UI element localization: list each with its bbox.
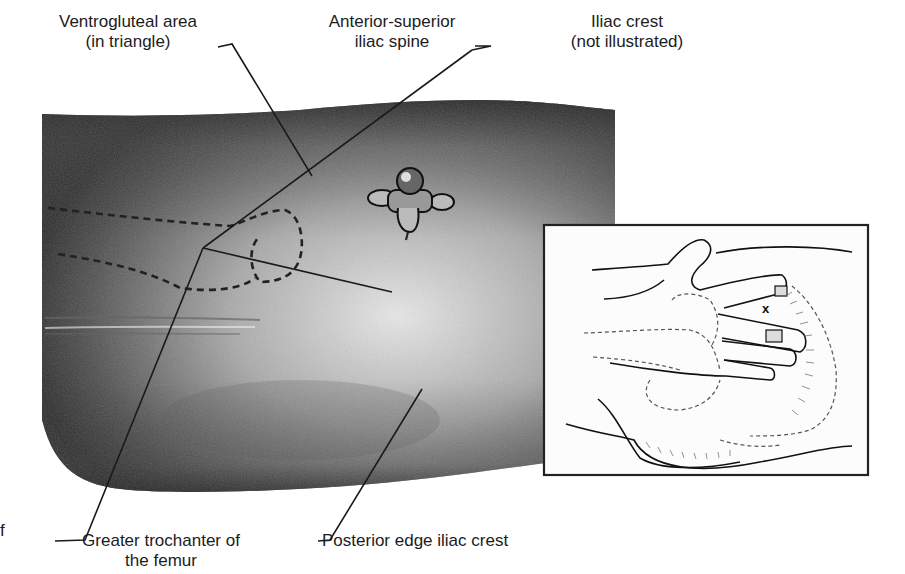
label-posterior-edge-line1: Posterior edge iliac crest	[322, 531, 508, 551]
label-anterior-superior-iliac-spine: Anterior-superior iliac spine	[307, 12, 477, 52]
label-ventrogluteal-area: Ventrogluteal area (in triangle)	[38, 12, 218, 52]
label-fragment-text: f	[0, 521, 5, 541]
label-asis-line1: Anterior-superior	[307, 12, 477, 32]
label-posterior-edge-iliac-crest: Posterior edge iliac crest	[322, 531, 508, 551]
label-greater-trochanter-line2: the femur	[66, 551, 256, 571]
label-cropped-fragment: f	[0, 521, 5, 541]
label-greater-trochanter: Greater trochanter of the femur	[66, 531, 256, 571]
label-asis-line2: iliac spine	[307, 32, 477, 52]
hip-illustration: x	[0, 0, 905, 574]
label-iliac-crest: Iliac crest (not illustrated)	[552, 12, 702, 52]
label-iliac-crest-line1: Iliac crest	[552, 12, 702, 32]
label-ventrogluteal-line1: Ventrogluteal area	[38, 12, 218, 32]
label-iliac-crest-line2: (not illustrated)	[552, 32, 702, 52]
label-ventrogluteal-line2: (in triangle)	[38, 32, 218, 52]
injection-site-marker: x	[762, 301, 770, 316]
inset-hand-drawing	[544, 225, 868, 475]
label-greater-trochanter-line1: Greater trochanter of	[66, 531, 256, 551]
hip-body	[40, 98, 620, 500]
